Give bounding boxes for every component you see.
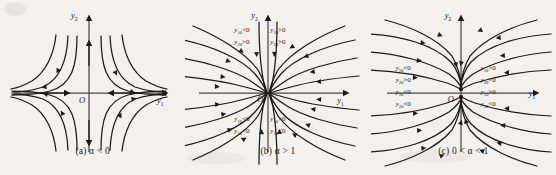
panel-b-caption: (b) α > 1: [185, 146, 370, 156]
panel-c-y2-axis-label: y2: [445, 10, 452, 22]
panel-a-y2-axis-label: y2: [71, 10, 78, 22]
panel-c-caption: (c) 0 < α < 1: [371, 146, 556, 156]
panel-c-quadrant-label-left-upper: y10<0 y20>0: [396, 64, 411, 88]
panel-c-origin-label: O: [448, 94, 454, 104]
panel-a-origin-label: O: [79, 95, 85, 105]
panel-c-quadrant-label-right-lower: y10>0 y20<0: [481, 88, 496, 112]
panel-c-quadrant-label-left-lower: y10<0 y20<0: [396, 88, 411, 112]
panel-b-quadrant-label-top-left: y10<0 y20>0: [234, 26, 249, 50]
phase-portrait-figure: y2 y1 O (a) α < 0: [0, 0, 556, 175]
panel-c: y2 y1 O y10<0 y20>0 y10<0 y20<0 y10>0 y2…: [371, 0, 556, 175]
panel-b-quadrant-label-bottom-right: y10>0 y20<0: [270, 115, 285, 139]
panel-b-y1-axis-label: y1: [337, 95, 344, 107]
panel-b-quadrant-label-top-right: y10>0 y20>0: [270, 26, 285, 50]
panel-b-origin-label: O: [257, 94, 263, 104]
axes-a: [14, 17, 166, 152]
panel-c-y1-axis-label: y1: [529, 88, 536, 100]
panel-c-quadrant-label-right-upper: y10>0 y20>0: [481, 64, 496, 88]
panel-b: y2 y1 O y10<0 y20>0 y10>0 y20>0 y10<0 y2…: [185, 0, 370, 175]
panel-b-y2-axis-label: y2: [251, 10, 258, 22]
panel-a-caption: (a) α < 0: [0, 146, 185, 156]
panel-a-y1-axis-label: y1: [157, 95, 164, 107]
panel-a: y2 y1 O (a) α < 0: [0, 0, 185, 175]
panel-b-quadrant-label-bottom-left: y10<0 y20<0: [234, 115, 249, 139]
